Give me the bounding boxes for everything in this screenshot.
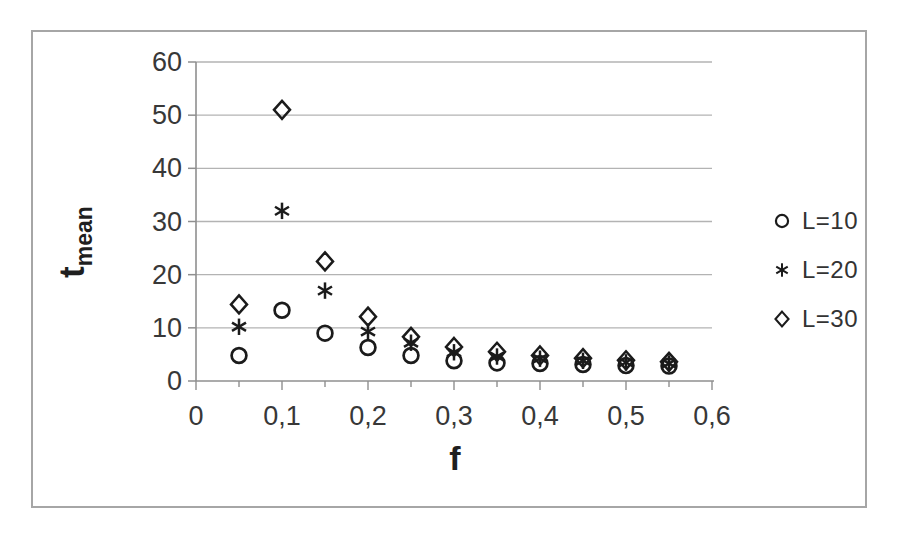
data-point-diamond xyxy=(360,308,376,326)
x-axis-title: f xyxy=(449,439,461,477)
legend-circle-marker-icon xyxy=(771,210,793,232)
data-point-diamond xyxy=(231,295,247,313)
x-tick-label: 0,3 xyxy=(435,401,473,431)
y-tick-label: 0 xyxy=(167,366,182,396)
y-tick-label: 60 xyxy=(152,47,182,77)
legend-marker-glyph xyxy=(776,214,788,226)
x-tick-label: 0,4 xyxy=(521,401,559,431)
legend-item-L10: L=10 xyxy=(771,207,858,234)
data-point-circle xyxy=(361,340,376,355)
legend-diamond-marker-icon xyxy=(771,308,793,330)
data-point-diamond xyxy=(317,252,333,270)
legend-label-L20: L=20 xyxy=(802,256,858,284)
legend-asterisk-marker-icon xyxy=(771,259,793,281)
data-point-circle xyxy=(232,348,247,363)
x-tick-label: 0,6 xyxy=(693,401,731,431)
legend-item-L20: L=20 xyxy=(771,256,858,283)
scatter-chart: tmean f 010203040506000,10,20,30,40,50,6 xyxy=(0,0,900,536)
legend-marker-glyph xyxy=(775,311,788,326)
figure-page: tmean f 010203040506000,10,20,30,40,50,6… xyxy=(0,0,900,536)
legend-label-L10: L=10 xyxy=(802,207,858,235)
legend-item-L30: L=30 xyxy=(771,305,858,332)
legend-label-L30: L=30 xyxy=(802,305,858,333)
y-tick-label: 20 xyxy=(152,260,182,290)
y-tick-label: 30 xyxy=(152,207,182,237)
y-tick-label: 50 xyxy=(152,100,182,130)
x-tick-label: 0 xyxy=(188,401,203,431)
legend: L=10 L=20 L=30 xyxy=(771,207,858,354)
x-tick-label: 0,5 xyxy=(607,401,645,431)
y-axis-title: tmean xyxy=(52,206,97,278)
data-point-circle xyxy=(275,303,290,318)
y-axis-title-subscript: mean xyxy=(71,206,97,266)
y-axis-title-main: t xyxy=(52,266,91,278)
y-tick-label: 10 xyxy=(152,313,182,343)
y-tick-label: 40 xyxy=(152,153,182,183)
data-point-diamond xyxy=(274,101,290,119)
x-tick-label: 0,1 xyxy=(263,401,301,431)
x-tick-label: 0,2 xyxy=(349,401,387,431)
